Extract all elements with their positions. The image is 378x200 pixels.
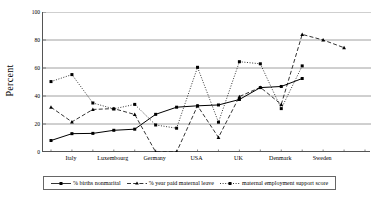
data-point-marker	[133, 128, 136, 131]
legend-item-1[interactable]: % year paid maternal leave	[127, 179, 214, 187]
series-line-1	[51, 34, 344, 152]
x-tick-label: UK	[234, 154, 243, 162]
x-tick-label: Sweden	[313, 154, 332, 162]
data-point-marker	[91, 102, 94, 105]
x-tick-label: Luxembourg	[97, 154, 128, 162]
x-tick-label: USA	[191, 154, 203, 162]
chart-legend: % births nonmarital% year paid maternal …	[43, 176, 336, 190]
y-tick-label: 60	[18, 65, 40, 71]
data-point-marker	[112, 107, 115, 110]
legend-label: % year paid maternal leave	[149, 179, 214, 187]
data-point-marker	[133, 103, 136, 106]
data-point-marker	[49, 105, 53, 109]
legend-label: % births nonmarital	[73, 179, 121, 187]
data-point-marker	[280, 107, 283, 110]
x-tick-label: Germany	[143, 154, 165, 162]
x-tick-label: Denmark	[269, 154, 291, 162]
data-point-marker	[91, 132, 94, 135]
data-point-marker	[70, 120, 74, 124]
legend-item-0[interactable]: % births nonmarital	[51, 179, 121, 187]
data-point-marker	[301, 64, 304, 67]
plot-area	[42, 12, 370, 152]
y-tick-label: 80	[18, 37, 40, 43]
data-point-marker	[196, 66, 199, 69]
series-line-2	[51, 62, 302, 129]
data-point-marker	[70, 132, 73, 135]
data-point-marker	[175, 106, 178, 109]
data-point-marker	[112, 129, 115, 132]
data-point-marker	[238, 60, 241, 63]
chart-container: Percent 020406080100 ItalyLuxembourgGerm…	[0, 0, 378, 200]
data-point-marker	[154, 113, 157, 116]
legend-label: maternal employment support score	[242, 179, 328, 187]
legend-key-icon	[51, 180, 71, 187]
series-line-0	[51, 79, 302, 141]
data-point-marker	[217, 103, 220, 106]
data-point-marker	[70, 73, 73, 76]
data-point-marker	[154, 123, 157, 126]
data-point-marker	[280, 85, 283, 88]
data-point-marker	[238, 95, 242, 99]
data-point-marker	[175, 127, 178, 130]
plot-svg	[43, 12, 371, 152]
y-tick-label: 20	[18, 121, 40, 127]
y-axis-tick-labels: 020406080100	[16, 12, 40, 152]
data-point-marker	[279, 103, 283, 107]
x-axis-tick-labels: ItalyLuxembourgGermanyUSAUKDenmarkSweden	[42, 154, 370, 168]
legend-key-icon	[127, 180, 147, 187]
legend-key-icon	[220, 180, 240, 187]
data-point-marker	[342, 46, 346, 50]
data-point-marker	[50, 80, 53, 83]
data-point-marker	[300, 33, 304, 37]
data-point-marker	[301, 77, 304, 80]
legend-item-2[interactable]: maternal employment support score	[220, 179, 328, 187]
y-tick-label: 40	[18, 93, 40, 99]
x-tick-label: Italy	[65, 154, 76, 162]
y-axis-title-label: Percent	[4, 64, 15, 96]
y-tick-label: 0	[18, 149, 40, 155]
data-point-marker	[259, 62, 262, 65]
data-point-marker	[217, 121, 220, 124]
data-point-marker	[50, 139, 53, 142]
y-tick-label: 100	[18, 9, 40, 15]
data-point-marker	[133, 113, 137, 117]
